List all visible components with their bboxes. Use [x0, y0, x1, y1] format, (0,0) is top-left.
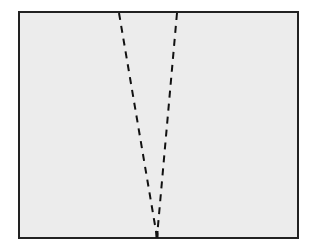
diagram-canvas: [0, 0, 311, 250]
v-shape-diagram: [0, 0, 311, 250]
gray-panel: [19, 12, 298, 238]
apex-marker: [156, 231, 159, 238]
